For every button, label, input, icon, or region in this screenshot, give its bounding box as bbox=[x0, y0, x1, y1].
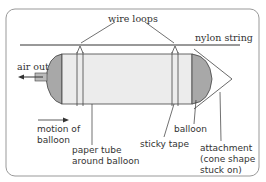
sticky-tape-label: sticky tape bbox=[140, 139, 189, 150]
air-out-label: air out bbox=[17, 61, 49, 72]
paper-tube-label-line1: paper tube bbox=[72, 145, 139, 156]
wire-loops-label: wire loops bbox=[108, 13, 158, 24]
nylon-string-label: nylon string bbox=[195, 32, 253, 43]
paper-tube-label: paper tube around balloon bbox=[72, 145, 139, 167]
attachment-label-line2: (cone shape bbox=[200, 154, 255, 165]
balloon-label: balloon bbox=[174, 124, 207, 135]
paper-tube-label-line2: around balloon bbox=[72, 156, 139, 167]
attachment-label: attachment (cone shape stuck on) bbox=[200, 143, 255, 176]
paper-tube bbox=[62, 54, 192, 104]
motion-label-line1: motion of bbox=[37, 124, 80, 135]
attachment-label-line1: attachment bbox=[200, 143, 255, 154]
attachment-label-line3: stuck on) bbox=[200, 165, 255, 176]
motion-label: motion of balloon bbox=[37, 124, 80, 146]
